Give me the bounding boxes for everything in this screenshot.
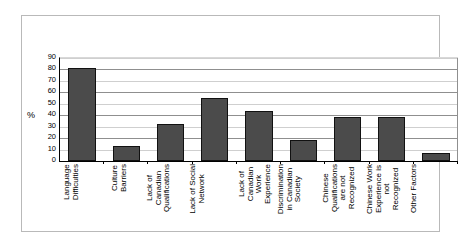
y-axis-tick-label: 50	[40, 99, 56, 107]
category-label-slot: LanguageDifficulties	[59, 162, 103, 246]
category-label-slot: CultureBarriers	[103, 162, 147, 246]
bar-slot	[193, 58, 237, 161]
bar[interactable]	[334, 117, 361, 161]
y-axis-tick-label: 20	[40, 133, 56, 141]
category-label-slot: Lack ofCanadianQualifications	[147, 162, 191, 246]
y-axis-tick-label: 60	[40, 88, 56, 96]
bar-slot	[148, 58, 192, 161]
category-label: Lack of SocialNetwork	[189, 164, 206, 214]
category-label: Discriminationin CanadianSociety	[277, 164, 303, 214]
category-label-slot: Lack of SocialNetwork	[192, 162, 236, 246]
bar-slot	[104, 58, 148, 161]
chart-figure-frame: % 9080706050403020100 LanguageDifficulti…	[21, 15, 440, 232]
category-label: CultureBarriers	[111, 164, 128, 192]
y-axis-tick-labels: 9080706050403020100	[40, 57, 56, 160]
y-axis-tick-label: 90	[40, 53, 56, 61]
x-axis-category-labels: LanguageDifficultiesCultureBarriersLack …	[59, 162, 457, 246]
category-label: Lack ofCanadianQualifications	[146, 164, 172, 212]
category-label-slot: Other Factors	[413, 162, 457, 246]
category-label: Chinese WorkExperience isnotRecognized	[366, 164, 400, 214]
bar-slot	[281, 58, 325, 161]
bar[interactable]	[422, 153, 449, 161]
bar[interactable]	[245, 111, 272, 161]
category-label-line: Barriers	[120, 164, 129, 192]
bar[interactable]	[157, 124, 184, 161]
category-label: ChineseQualificationsare notRecognized	[322, 164, 356, 212]
bar-slot	[60, 58, 104, 161]
bar-series	[60, 58, 458, 161]
category-label-slot: ChineseQualificationsare notRecognized	[324, 162, 368, 246]
bar[interactable]	[68, 68, 95, 161]
category-label-slot: Lack ofCanadianWorkExperience	[236, 162, 280, 246]
category-label-line: Society	[294, 164, 303, 214]
y-axis-tick-label: 80	[40, 65, 56, 73]
bar-slot	[414, 58, 458, 161]
category-label-line: Experience	[264, 164, 273, 204]
x-axis-tickmark	[457, 161, 458, 164]
bar[interactable]	[378, 117, 405, 161]
y-axis-tick-label: 0	[40, 156, 56, 164]
bar[interactable]	[290, 140, 317, 161]
bar-slot	[325, 58, 369, 161]
bar[interactable]	[113, 146, 140, 161]
bar-slot	[237, 58, 281, 161]
y-axis-tick-label: 40	[40, 110, 56, 118]
y-axis-title: %	[23, 110, 39, 120]
bar-slot	[370, 58, 414, 161]
category-label-slot: Chinese WorkExperience isnotRecognized	[369, 162, 413, 246]
category-label-line: Qualifications	[163, 164, 172, 212]
category-label-slot: Discriminationin CanadianSociety	[280, 162, 324, 246]
category-label-line: Difficulties	[72, 164, 81, 200]
y-axis-tick-label: 30	[40, 122, 56, 130]
category-label-line: Chinese Work	[366, 164, 375, 214]
category-label-line: Network	[197, 164, 206, 214]
category-label: LanguageDifficulties	[63, 164, 80, 200]
bar[interactable]	[201, 98, 228, 161]
category-label-line: Lack of	[146, 164, 155, 212]
y-axis-tick-label: 70	[40, 76, 56, 84]
category-label-line: Recognized	[391, 164, 400, 214]
category-label: Lack ofCanadianWorkExperience	[238, 164, 272, 204]
category-label: Other Factors	[410, 164, 419, 213]
y-axis-tick-label: 10	[40, 145, 56, 153]
category-label-line: Other Factors	[410, 164, 419, 213]
plot-area	[59, 57, 458, 162]
category-label-line: Recognized	[348, 164, 357, 212]
